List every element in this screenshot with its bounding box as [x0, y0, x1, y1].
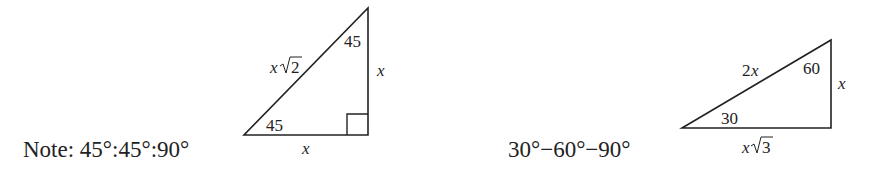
- base-root: 3: [762, 138, 771, 157]
- right-angle-marker: [347, 114, 368, 135]
- triangle-30-outline: [682, 40, 831, 128]
- base-var: x: [741, 138, 750, 157]
- hypotenuse-label: 2 x: [742, 61, 759, 80]
- angle-left-label: 30: [721, 109, 738, 128]
- left-caption: Note: 45°:45°:90°: [23, 137, 189, 162]
- vertical-side-label: x: [837, 74, 846, 93]
- triangle-30-60-90: 30 60 2 x x x 3 30°−60°−90°: [508, 40, 846, 162]
- angle-bottom-label: 45: [266, 116, 283, 135]
- triangle-45-45-90: 45 45 x 2 x x Note: 45°:45°:90°: [23, 8, 385, 162]
- triangle-45-outline: [244, 8, 368, 135]
- base-side-label: x: [301, 139, 310, 158]
- vertical-side-label: x: [376, 61, 385, 80]
- base-side-label: x 3: [741, 137, 773, 157]
- hypotenuse-var: x: [269, 58, 278, 77]
- angle-top-label: 45: [344, 32, 361, 51]
- right-caption: 30°−60°−90°: [508, 137, 631, 162]
- hypotenuse-label: x 2: [269, 57, 302, 77]
- angle-top-label: 60: [803, 59, 820, 78]
- hypotenuse-num: 2: [742, 61, 751, 80]
- hypotenuse-var: x: [750, 61, 759, 80]
- hypotenuse-root: 2: [291, 58, 300, 77]
- triangle-diagram: 45 45 x 2 x x Note: 45°:45°:90° 30 60 2 …: [0, 0, 869, 171]
